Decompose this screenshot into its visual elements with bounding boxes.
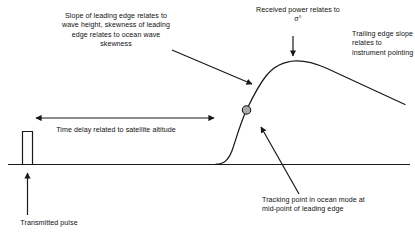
leading-edge-pointer-arrow <box>172 50 252 84</box>
time-delay-annotation: Time delay related to satellite altitude <box>52 126 180 135</box>
tracking-point-annotation: Tracking point in ocean mode at mid-poin… <box>262 196 380 215</box>
transmitted-pulse-bar <box>23 132 33 165</box>
trailing-edge-annotation: Trailing edge slope relates to instrumen… <box>352 30 414 58</box>
received-power-annotation: Received power relates to σ° <box>252 6 344 25</box>
altimeter-waveform-diagram: Slope of leading edge relates to wave he… <box>0 0 415 242</box>
tracking-point-pointer-arrow <box>261 127 299 194</box>
tracking-point-marker <box>242 106 250 114</box>
leading-edge-annotation: Slope of leading edge relates to wave he… <box>62 12 170 50</box>
transmitted-pulse-annotation: Transmitted pulse <box>2 219 96 228</box>
